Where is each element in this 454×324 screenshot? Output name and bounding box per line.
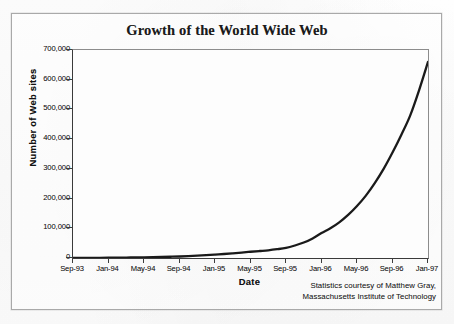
x-tick-mark [72,258,73,263]
x-tick-mark [179,258,180,263]
scanned-page: and the most widely used of all Internet… [0,0,454,324]
y-tick-label: 500,000 [6,103,70,112]
series-path [73,62,428,258]
x-tick-mark [143,258,144,263]
y-tick-label: 700,000 [6,44,70,53]
x-tick-mark [250,258,251,263]
x-tick-mark [392,258,393,263]
plot-area [72,49,429,259]
attribution-line-2: Massachusetts Institute of Technology [303,292,436,303]
attribution-note: Statistics courtesy of Matthew Gray, Mas… [303,281,436,302]
x-tick-label: Jan-97 [400,264,454,273]
web-sites-growth-line [73,50,428,258]
y-axis-tick-group: 700,000600,000500,000400,000300,000200,0… [0,0,70,324]
x-tick-mark [321,258,322,263]
plot-inner [73,50,428,258]
x-tick-mark [356,258,357,263]
y-tick-label: 600,000 [6,74,70,83]
y-tick-label: 100,000 [6,222,70,231]
x-tick-mark [285,258,286,263]
x-tick-mark [108,258,109,263]
x-tick-mark [214,258,215,263]
y-tick-label: 400,000 [6,133,70,142]
x-tick-mark [427,258,428,263]
y-tick-label: 300,000 [6,163,70,172]
attribution-line-1: Statistics courtesy of Matthew Gray, [303,281,436,292]
y-tick-label: 200,000 [6,193,70,202]
y-tick-label: 0 [6,252,70,261]
